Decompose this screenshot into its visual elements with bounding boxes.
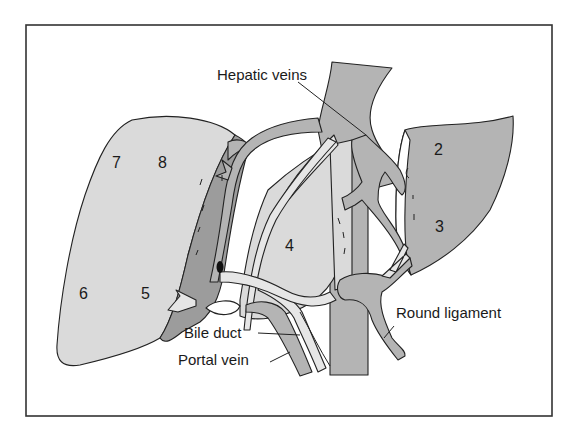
portal-vein-label: Portal vein bbox=[178, 351, 249, 368]
segment-8-label: 8 bbox=[158, 154, 167, 171]
segment-6-label: 6 bbox=[79, 285, 88, 302]
segment-5-label: 5 bbox=[141, 285, 150, 302]
hepatic-veins-label: Hepatic veins bbox=[217, 66, 307, 83]
portal-vein-leader bbox=[270, 352, 290, 362]
segment-2-label: 2 bbox=[434, 141, 443, 158]
round-ligament-label: Round ligament bbox=[396, 304, 502, 321]
bile-duct-label: Bile duct bbox=[184, 324, 242, 341]
dark-vessel-lumen bbox=[217, 261, 224, 273]
segment-4-label: 4 bbox=[285, 237, 294, 254]
segment-3-label: 3 bbox=[435, 218, 444, 235]
liver-anatomy-diagram: 7 8 6 5 4 2 3 Hepatic veins Bile duct Po… bbox=[0, 0, 572, 432]
segment-7-label: 7 bbox=[112, 154, 121, 171]
